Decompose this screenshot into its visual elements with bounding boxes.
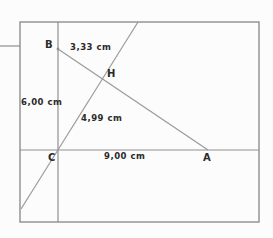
measurement-label-CH: 4,99 cm [81, 114, 122, 123]
point-label-C: C [48, 153, 55, 163]
segment-BA [58, 49, 208, 150]
drawing-area-border [20, 22, 259, 222]
measurement-label-CA: 9,00 cm [104, 152, 145, 161]
measurement-label-BH: 3,33 cm [70, 43, 111, 52]
geometry-canvas: B H C A 3,33 cm 6,00 cm 4,99 cm 9,00 cm [0, 0, 273, 238]
point-label-H: H [107, 69, 115, 79]
measurement-label-BC: 6,00 cm [21, 98, 62, 107]
point-label-A: A [203, 153, 211, 163]
point-label-B: B [45, 40, 53, 50]
point-B-dot [57, 48, 60, 51]
geometry-drawing [0, 0, 273, 238]
